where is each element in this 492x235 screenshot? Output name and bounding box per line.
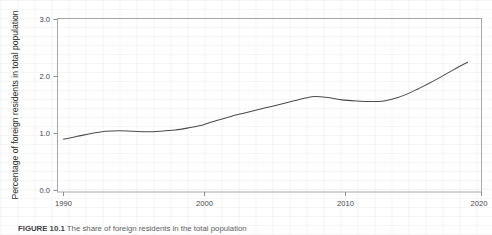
y-tick-label-3: 3.0: [39, 15, 50, 24]
y-axis-ticks: [54, 20, 58, 191]
y-tick-label-0: 0.0: [39, 186, 50, 195]
y-tick-label-2: 2.0: [39, 72, 50, 81]
y-tick-label-1: 1.0: [39, 129, 50, 138]
x-tick-label-1990: 1990: [55, 199, 72, 208]
y-axis-title: Percentage of foreign residents in total…: [10, 10, 20, 199]
x-tick-label-2000: 2000: [196, 199, 213, 208]
x-axis-ticks: [64, 192, 482, 196]
plot-area-border: [58, 19, 482, 193]
x-tick-label-2010: 2010: [337, 199, 354, 208]
figure-caption-label: FIGURE 10.1: [18, 224, 65, 233]
x-tick-label-2020: 2020: [471, 199, 488, 208]
figure-caption: FIGURE 10.1 The share of foreign residen…: [18, 224, 478, 234]
data-series-line: [64, 62, 468, 139]
figure-caption-text: The share of foreign residents in the to…: [67, 224, 247, 233]
line-chart: 0.0 1.0 2.0 3.0 1990 2000 2010 2020 Perc…: [0, 0, 492, 212]
figure-container: 0.0 1.0 2.0 3.0 1990 2000 2010 2020 Perc…: [0, 0, 492, 235]
